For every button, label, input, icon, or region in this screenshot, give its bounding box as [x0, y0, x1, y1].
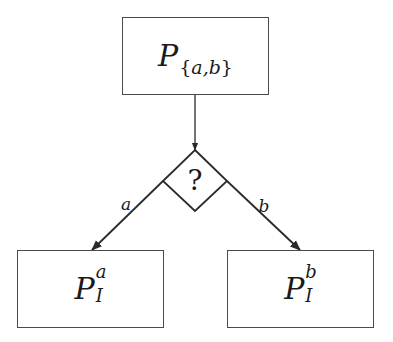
right-label-base: P [284, 274, 304, 304]
edge-label-b: b [259, 196, 270, 216]
brace-close: } [221, 56, 233, 78]
left-label-base: P [75, 274, 95, 304]
root-label-subscript: {a,b} [179, 56, 233, 78]
root-node-box: P{a,b} [122, 17, 269, 95]
left-label-scripts: a I [96, 271, 107, 307]
edge-label-a: a [121, 194, 131, 214]
root-label-base: P [158, 38, 178, 73]
decision-question-mark: ? [187, 164, 202, 197]
brace-open: { [179, 56, 191, 78]
right-label-subscript: I [305, 287, 317, 305]
right-node-box: P b I [227, 250, 374, 328]
left-node-label: P a I [75, 271, 107, 307]
right-node-label: P b I [284, 271, 317, 307]
left-node-box: P a I [17, 250, 164, 328]
right-label-scripts: b I [305, 271, 317, 307]
right-label-superscript: b [305, 263, 317, 281]
decision-diagram: P{a,b} ? a b P a I P b I [0, 0, 393, 342]
root-node-label: P{a,b} [158, 41, 233, 71]
left-label-superscript: a [96, 263, 107, 281]
subscript-set: a,b [191, 56, 221, 78]
edge-decision-to-left [92, 181, 163, 250]
left-label-subscript: I [96, 287, 107, 305]
